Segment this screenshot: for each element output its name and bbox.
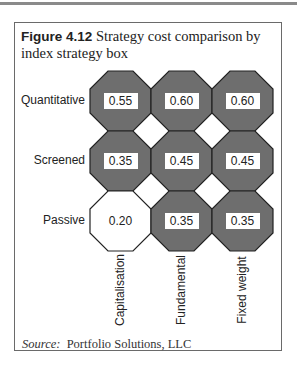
cell-value: 0.35 [226,213,260,229]
cell-value: 0.35 [165,213,199,229]
cell-value: 0.55 [104,93,138,109]
cell-value: 0.35 [104,153,138,169]
source-text: Portfolio Solutions, LLC [67,337,192,351]
cell-value: 0.45 [165,153,199,169]
column-label-fundamental: Fundamental [174,255,188,325]
source-label: Source: [22,337,60,351]
cell-value: 0.20 [104,213,138,229]
octagon-grid [0,0,297,376]
source-note: Source: Portfolio Solutions, LLC [22,337,191,352]
column-label-fixed-weight: Fixed weight [235,256,249,323]
cell-value: 0.60 [226,93,260,109]
column-label-capitalisation: Capitalisation [113,254,127,326]
cell-value: 0.60 [165,93,199,109]
cell-value: 0.45 [226,153,260,169]
